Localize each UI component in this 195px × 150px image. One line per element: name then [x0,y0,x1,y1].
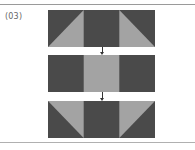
bottom-rule [0,142,195,143]
quilt-block-step-2 [48,55,155,92]
figure-label: (03) [5,12,22,21]
quilt-block-step-1 [48,10,155,47]
down-arrow-icon [101,47,104,55]
quilt-block-step-3 [48,101,155,138]
top-rule [0,4,195,5]
down-arrow-icon [101,92,104,101]
